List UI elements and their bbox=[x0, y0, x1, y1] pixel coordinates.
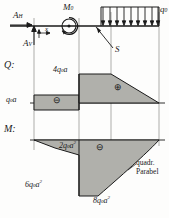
q-left-value: q0a bbox=[6, 96, 16, 104]
label-reaction-av: AV bbox=[23, 39, 32, 48]
label-x-axis: x bbox=[45, 26, 48, 33]
beam-diagram-figure: AH AV x M0 S q0 Q: q0a ⊖ 4q0a ⊕ M: 2q0a2… bbox=[0, 0, 169, 218]
x-axis-arrow bbox=[37, 30, 50, 39]
parabola-note-line1: quadr. bbox=[136, 158, 159, 167]
reaction-av-arrow bbox=[32, 26, 37, 45]
hinge-leader-line bbox=[96, 27, 113, 48]
m-value-bottom: 8q0a2 bbox=[93, 196, 110, 205]
m-value-upper: 2q0a2 bbox=[59, 141, 76, 150]
parabola-note: quadr. Parabel bbox=[136, 158, 159, 177]
q-diagram-title: Q: bbox=[4, 60, 15, 70]
m-diagram-title: M: bbox=[4, 124, 16, 134]
parabola-note-line2: Parabel bbox=[136, 167, 159, 176]
q-positive-sign: ⊕ bbox=[114, 83, 122, 92]
label-applied-moment: M0 bbox=[63, 3, 73, 12]
distributed-load-arrows bbox=[101, 7, 159, 26]
label-reaction-ah: AH bbox=[13, 11, 23, 20]
m-value-left: 6q0a2 bbox=[25, 180, 42, 189]
m-negative-sign: ⊖ bbox=[96, 143, 104, 152]
label-hinge-s: S bbox=[115, 45, 120, 54]
q-negative-sign: ⊖ bbox=[53, 96, 61, 105]
label-distributed-load: q0 bbox=[160, 5, 167, 14]
q-peak-value: 4q0a bbox=[53, 66, 67, 74]
